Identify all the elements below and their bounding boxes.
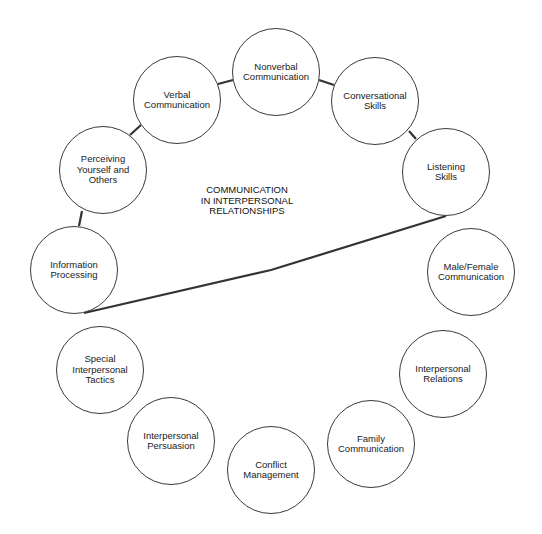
topic-node-male-female-communication: Male/Female Communication: [427, 228, 515, 316]
diagram-title: COMMUNICATION IN INTERPERSONAL RELATIONS…: [195, 185, 299, 217]
topic-node-nonverbal-communication: Nonverbal Communication: [232, 28, 320, 116]
topic-node-label: Special Interpersonal Tactics: [72, 354, 127, 386]
topic-node-label: Listening Skills: [427, 162, 465, 183]
topic-node-label: Perceiving Yourself and Others: [77, 154, 129, 186]
connector-line: [84, 216, 446, 313]
topic-node-label: Conversational Skills: [343, 91, 406, 112]
topic-node-label: Information Processing: [50, 260, 98, 281]
topic-node-conversational-skills: Conversational Skills: [331, 57, 419, 145]
topic-node-label: Male/Female Communication: [438, 262, 504, 283]
connector-line: [218, 80, 233, 84]
connector-line: [319, 80, 334, 85]
topic-node-information-processing: Information Processing: [30, 226, 118, 314]
connector-line: [79, 211, 82, 226]
connector-line: [130, 125, 141, 135]
topic-node-label: Interpersonal Relations: [415, 364, 470, 385]
topic-node-label: Family Communication: [338, 434, 404, 455]
topic-node-label: Interpersonal Persuasion: [143, 431, 198, 452]
topic-node-family-communication: Family Communication: [327, 400, 415, 488]
topic-node-conflict-management: Conflict Management: [227, 426, 315, 514]
topic-node-label: Nonverbal Communication: [243, 62, 309, 83]
topic-node-label: Conflict Management: [243, 460, 298, 481]
topic-node-interpersonal-relations: Interpersonal Relations: [399, 330, 487, 418]
topic-node-interpersonal-persuasion: Interpersonal Persuasion: [127, 397, 215, 485]
topic-node-listening-skills: Listening Skills: [402, 128, 490, 216]
topic-node-verbal-communication: Verbal Communication: [133, 56, 221, 144]
topic-node-special-interpersonal-tactics: Special Interpersonal Tactics: [56, 326, 144, 414]
connector-line: [409, 131, 416, 139]
topic-node-perceiving-yourself-and-others: Perceiving Yourself and Others: [59, 126, 147, 214]
topic-node-label: Verbal Communication: [144, 90, 210, 111]
